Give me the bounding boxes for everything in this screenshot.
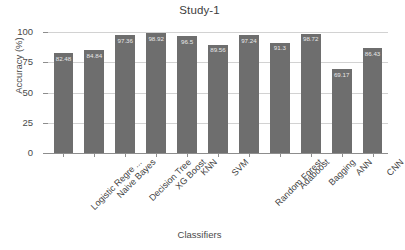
x-tick-mark <box>373 153 374 157</box>
bar[interactable] <box>332 69 352 153</box>
x-tick-mark <box>218 153 219 157</box>
x-axis-title: Classifiers <box>0 229 399 240</box>
bar-slot: 82.48 <box>54 32 74 153</box>
bar-value-label: 69.17 <box>334 72 349 78</box>
bar-value-label: 98.72 <box>303 36 318 42</box>
bar-value-label: 98.92 <box>148 36 163 42</box>
x-tick-mark <box>187 153 188 157</box>
bar[interactable] <box>177 36 197 153</box>
bar-slot: 96.5 <box>177 32 197 153</box>
bar-slot: 97.24 <box>239 32 259 153</box>
bar[interactable] <box>84 50 104 153</box>
bar-value-label: 82.48 <box>56 56 71 62</box>
bar-slot: 69.17 <box>332 32 352 153</box>
x-tick-mark <box>94 153 95 157</box>
x-tick-mark <box>311 153 312 157</box>
y-tick-label-50: 50 <box>3 88 33 98</box>
bar[interactable] <box>208 45 228 153</box>
chart-title: Study-1 <box>0 4 399 16</box>
bar[interactable] <box>146 33 166 153</box>
bar[interactable] <box>363 48 383 153</box>
bar-slot: 84.84 <box>84 32 104 153</box>
bar-slot: 97.36 <box>115 32 135 153</box>
x-tick-mark <box>342 153 343 157</box>
x-axis-tick-labels: Logistic Regre ...Naive BayesDecision Tr… <box>48 153 388 227</box>
x-tick-mark <box>156 153 157 157</box>
plot-area: 0255075100 82.4884.8497.3698.9296.589.56… <box>48 32 388 153</box>
bar-slot: 98.72 <box>301 32 321 153</box>
bar-value-label: 97.24 <box>241 38 256 44</box>
bar[interactable] <box>115 35 135 153</box>
bar[interactable] <box>301 34 321 153</box>
y-tick-label-0: 0 <box>3 148 33 158</box>
bar-value-label: 91.3 <box>274 45 286 51</box>
bar-value-label: 97.36 <box>118 38 133 44</box>
bar-value-label: 96.5 <box>181 39 193 45</box>
bar-value-label: 84.84 <box>87 53 102 59</box>
x-tick-mark <box>125 153 126 157</box>
bar-value-label: 89.56 <box>210 47 225 53</box>
bar[interactable] <box>54 53 74 153</box>
x-tick-mark <box>249 153 250 157</box>
bar-value-label: 86.43 <box>365 51 380 57</box>
y-tick-label-100: 100 <box>3 27 33 37</box>
x-tick-label: Bagging <box>326 157 356 187</box>
y-tick-label-25: 25 <box>3 118 33 128</box>
bar-slot: 91.3 <box>270 32 290 153</box>
bar-slot: 98.92 <box>146 32 166 153</box>
bar-slot: 89.56 <box>208 32 228 153</box>
x-tick-label: CNN <box>384 157 405 178</box>
bar[interactable] <box>239 35 259 153</box>
x-tick-mark <box>63 153 64 157</box>
x-tick-mark <box>280 153 281 157</box>
x-tick-label: ANN <box>353 157 374 178</box>
bars-layer: 82.4884.8497.3698.9296.589.5697.2491.398… <box>48 32 388 153</box>
x-tick-label: SVM <box>230 157 251 178</box>
y-tick-label-75: 75 <box>3 57 33 67</box>
bar[interactable] <box>270 43 290 153</box>
bar-slot: 86.43 <box>363 32 383 153</box>
